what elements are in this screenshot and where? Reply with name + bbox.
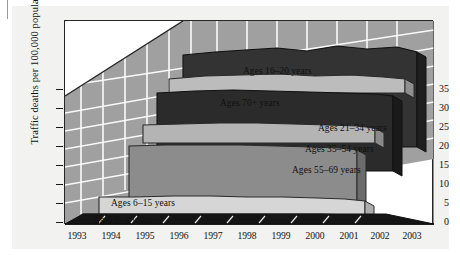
x-tick-label-2002: 2002 <box>363 230 397 241</box>
series-label-ages-0-4: Ages 0–4 years <box>93 215 152 225</box>
x-tick-label-1997: 1997 <box>196 230 230 241</box>
page-margin-rule <box>7 0 8 19</box>
x-tick-label-1995: 1995 <box>128 230 162 241</box>
series-label-ages-35-54: Ages 35–54 years <box>305 144 374 154</box>
figure-page: Traffic deaths per 100,000 population 35… <box>0 0 460 255</box>
figure-panel: Traffic deaths per 100,000 population 35… <box>12 6 449 249</box>
y-tick-mark-0 <box>56 222 63 223</box>
y-tick-mark-5 <box>56 203 63 204</box>
x-tick-label-1993: 1993 <box>60 230 94 241</box>
series-label-ages-21-34: Ages 21–34 years <box>318 123 387 133</box>
y-tick-mark-20 <box>56 146 63 147</box>
x-tick-label-1996: 1996 <box>162 230 196 241</box>
y-tick-mark-10 <box>56 184 63 185</box>
x-tick-label-2003: 2003 <box>395 230 429 241</box>
x-tick-label-1998: 1998 <box>230 230 264 241</box>
series-label-ages-70plus: Ages 70+ years <box>220 98 280 108</box>
chart-scene-3d: Ages 16–20 years Ages 70+ years Ages 21–… <box>65 21 434 225</box>
y-tick-mark-25 <box>56 127 63 128</box>
y-tick-mark-15 <box>56 165 63 166</box>
y-tick-mark-30 <box>56 108 63 109</box>
y-axis-title: Traffic deaths per 100,000 population <box>29 0 40 149</box>
x-tick-label-2001: 2001 <box>332 230 366 241</box>
series-label-ages-55-69: Ages 55–69 years <box>292 165 361 175</box>
x-tick-label-1994: 1994 <box>94 230 128 241</box>
plot-frame: Ages 16–20 years Ages 70+ years Ages 21–… <box>64 20 433 224</box>
x-tick-label-1999: 1999 <box>264 230 298 241</box>
y-tick-mark-35 <box>56 89 63 90</box>
x-tick-label-2000: 2000 <box>298 230 332 241</box>
series-label-ages-6-15: Ages 6–15 years <box>111 198 175 208</box>
series-label-ages-16-20: Ages 16–20 years <box>243 66 312 76</box>
